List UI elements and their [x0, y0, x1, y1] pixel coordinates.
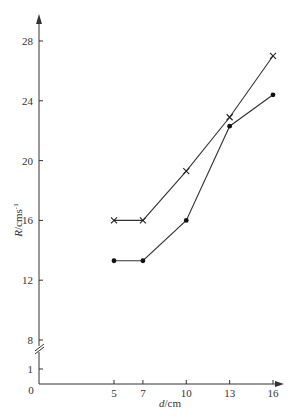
y-tick-label: 8	[28, 334, 34, 346]
cross-marker-icon	[270, 53, 276, 59]
series-line	[114, 56, 273, 220]
cross-marker-icon	[183, 168, 189, 174]
origin-label: 0	[28, 384, 34, 396]
dot-marker-icon	[184, 218, 189, 223]
x-tick-label: 10	[181, 387, 193, 399]
axis-ticks: 18121620242857101316	[22, 35, 279, 399]
line-chart: 18121620242857101316 0 d/cm R/cms-1	[0, 0, 299, 419]
series-line	[114, 95, 273, 261]
x-tick-label: 16	[268, 387, 280, 399]
y-axis-label: R/cms-1	[12, 203, 24, 238]
y-tick-label: 20	[22, 155, 34, 167]
y-tick-label: 1	[28, 363, 34, 375]
y-tick-label: 12	[22, 274, 33, 286]
dot-marker-icon	[227, 124, 232, 129]
y-tick-label: 24	[22, 95, 34, 107]
x-tick-label: 13	[224, 387, 236, 399]
y-tick-label: 28	[22, 35, 34, 47]
dot-marker-icon	[112, 258, 117, 263]
dot-marker-icon	[141, 258, 146, 263]
x-tick-label: 7	[140, 387, 146, 399]
x-tick-label: 5	[111, 387, 117, 399]
cross-marker-icon	[227, 114, 233, 120]
axes	[35, 14, 284, 387]
data-series	[111, 53, 276, 263]
dot-marker-icon	[271, 92, 276, 97]
y-axis-arrow-icon	[36, 14, 42, 24]
x-axis-label: d/cm	[159, 397, 181, 409]
